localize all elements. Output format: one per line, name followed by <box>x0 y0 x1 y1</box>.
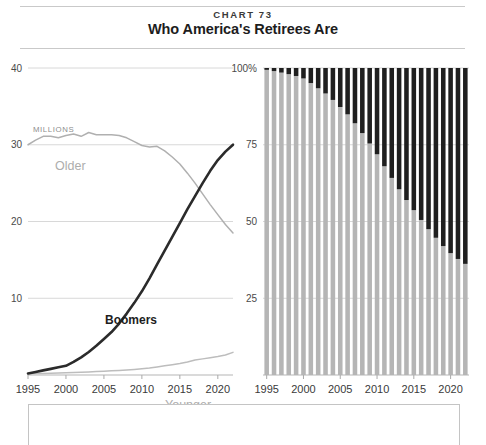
bar-segment-other <box>331 100 336 375</box>
bar-segment-boomers <box>426 68 431 229</box>
bar-segment-other <box>448 253 453 375</box>
bar-chart-panel: 100%755025199520002005201020152020 <box>235 55 486 395</box>
bar-segment-other <box>316 88 321 375</box>
bar-segment-other <box>309 83 314 375</box>
bar-segment-boomers <box>353 68 358 123</box>
line-chart-panel: 40302010199520002005201020152020 MILLION… <box>0 55 235 395</box>
x-tick-label: 2015 <box>168 383 192 395</box>
bar-segment-other <box>412 210 417 375</box>
x-tick-label: 2020 <box>206 383 230 395</box>
bar-segment-other <box>404 200 409 375</box>
bar-segment-boomers <box>463 68 468 264</box>
bar-segment-boomers <box>316 68 321 88</box>
bar-segment-boomers <box>338 68 343 107</box>
line-series-boomers <box>28 145 233 374</box>
series-label-boomers: Boomers <box>105 313 157 327</box>
bar-segment-boomers <box>448 68 453 253</box>
x-tick-label: 2010 <box>130 383 154 395</box>
bar-segment-other <box>264 70 269 375</box>
bar-segment-other <box>419 220 424 375</box>
y-tick-label: 100% <box>231 63 257 74</box>
bar-segment-boomers <box>456 68 461 259</box>
x-tick-label: 2000 <box>291 383 315 395</box>
header-rule-top <box>20 6 465 7</box>
bar-segment-boomers <box>434 68 439 238</box>
bar-segment-other <box>375 154 380 375</box>
x-tick-label: 2010 <box>365 383 389 395</box>
chart-number: CHART 73 <box>0 9 486 20</box>
x-tick-label: 2020 <box>438 383 462 395</box>
line-chart-svg: 40302010199520002005201020152020 <box>0 55 235 395</box>
y-tick-label: 20 <box>11 216 23 227</box>
bar-segment-other <box>382 166 387 375</box>
x-tick-label: 2005 <box>92 383 116 395</box>
bar-segment-other <box>463 264 468 375</box>
bar-segment-other <box>294 76 299 375</box>
bar-segment-other <box>441 246 446 375</box>
bar-segment-boomers <box>286 68 291 74</box>
x-tick-label: 1995 <box>16 383 40 395</box>
bar-segment-other <box>301 78 306 375</box>
bar-segment-boomers <box>382 68 387 166</box>
x-tick-label: 1995 <box>254 383 278 395</box>
bar-segment-other <box>367 144 372 375</box>
y-tick-label: 30 <box>11 139 23 150</box>
bar-segment-other <box>397 189 402 375</box>
header-rule-bottom <box>20 48 465 49</box>
page-title: Who America's Retirees Are <box>0 21 486 37</box>
bar-segment-boomers <box>301 68 306 78</box>
y-tick-label: 25 <box>246 293 258 304</box>
bar-segment-boomers <box>345 68 350 114</box>
bar-segment-boomers <box>389 68 394 178</box>
bar-segment-other <box>279 73 284 375</box>
bar-segment-boomers <box>279 68 284 73</box>
bar-segment-boomers <box>294 68 299 76</box>
bar-segment-boomers <box>441 68 446 246</box>
bar-segment-other <box>456 259 461 375</box>
bar-segment-other <box>338 107 343 375</box>
bar-segment-boomers <box>323 68 328 93</box>
y-tick-label: 10 <box>11 293 23 304</box>
bar-segment-boomers <box>272 68 277 71</box>
bar-segment-other <box>353 123 358 375</box>
bar-segment-other <box>389 178 394 375</box>
bar-segment-other <box>286 74 291 375</box>
y-tick-label: 40 <box>11 63 23 74</box>
bar-chart-svg: 100%755025199520002005201020152020 <box>235 55 486 395</box>
line-series-younger <box>28 352 233 373</box>
bar-segment-other <box>272 71 277 375</box>
y-tick-label: 50 <box>246 216 258 227</box>
x-tick-label: 2015 <box>402 383 426 395</box>
bar-segment-boomers <box>375 68 380 154</box>
bar-segment-boomers <box>412 68 417 210</box>
bar-segment-other <box>426 229 431 375</box>
unit-label: MILLIONS <box>33 125 74 134</box>
bar-segment-boomers <box>331 68 336 100</box>
x-tick-label: 2000 <box>54 383 78 395</box>
y-tick-label: 75 <box>246 139 258 150</box>
x-tick-label: 2005 <box>328 383 352 395</box>
bar-segment-boomers <box>404 68 409 200</box>
bar-segment-boomers <box>367 68 372 144</box>
series-label-older: Older <box>55 159 86 173</box>
bar-segment-other <box>323 93 328 375</box>
bar-segment-other <box>345 114 350 375</box>
bar-segment-other <box>434 238 439 375</box>
bar-segment-boomers <box>397 68 402 189</box>
bar-segment-boomers <box>264 68 269 70</box>
bottom-frame <box>28 404 460 445</box>
bar-segment-boomers <box>419 68 424 220</box>
bar-segment-boomers <box>360 68 365 133</box>
bar-segment-other <box>360 133 365 375</box>
bar-segment-boomers <box>309 68 314 83</box>
